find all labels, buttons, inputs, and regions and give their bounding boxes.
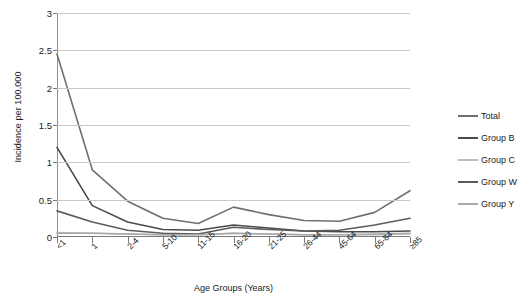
gridline xyxy=(57,88,410,89)
y-axis-tick-label: 2 xyxy=(18,83,52,92)
plot-area xyxy=(57,13,410,237)
legend-item[interactable]: Group W xyxy=(458,171,532,193)
y-axis-tick-mark xyxy=(53,88,57,89)
y-axis-tick-label: 1.5 xyxy=(18,121,52,130)
y-axis-tick-mark xyxy=(53,162,57,163)
legend-label: Group W xyxy=(481,177,517,187)
legend-item[interactable]: Group B xyxy=(458,127,532,149)
gridline xyxy=(57,200,410,201)
series-line-total xyxy=(57,54,410,223)
legend-label: Group Y xyxy=(481,199,514,209)
y-axis-tick-label: 0 xyxy=(18,233,52,242)
gridline xyxy=(57,125,410,126)
chart-legend: TotalGroup BGroup CGroup WGroup Y xyxy=(458,105,532,215)
series-line-group-b xyxy=(57,147,410,231)
legend-label: Total xyxy=(481,111,500,121)
legend-swatch-icon xyxy=(458,137,478,139)
y-axis-tick-mark xyxy=(53,13,57,14)
legend-item[interactable]: Group Y xyxy=(458,193,532,215)
legend-swatch-icon xyxy=(458,203,478,205)
legend-item[interactable]: Total xyxy=(458,105,532,127)
y-axis-tick-label: 0.5 xyxy=(18,195,52,204)
y-axis-tick-mark xyxy=(53,200,57,201)
gridline xyxy=(57,13,410,14)
y-axis-tick-label: 3 xyxy=(18,9,52,18)
y-axis-tick-labels: 00.511.522.53 xyxy=(14,0,52,303)
chart-figure: Incidence per 100,000 00.511.522.53 <112… xyxy=(0,0,532,303)
y-axis-tick-label: 2.5 xyxy=(18,46,52,55)
gridline xyxy=(57,162,410,163)
x-axis-title: Age Groups (Years) xyxy=(57,283,410,293)
legend-label: Group B xyxy=(481,133,515,143)
x-axis-tick-labels: <112-45-1011-1516-2021-2526-4445-6465-84… xyxy=(57,244,410,284)
y-axis-tick-mark xyxy=(53,50,57,51)
gridline xyxy=(57,50,410,51)
y-axis-tick-mark xyxy=(53,125,57,126)
legend-label: Group C xyxy=(481,155,515,165)
legend-swatch-icon xyxy=(458,159,478,161)
legend-item[interactable]: Group C xyxy=(458,149,532,171)
y-axis-tick-label: 1 xyxy=(18,158,52,167)
legend-swatch-icon xyxy=(458,181,478,183)
legend-swatch-icon xyxy=(458,115,478,117)
